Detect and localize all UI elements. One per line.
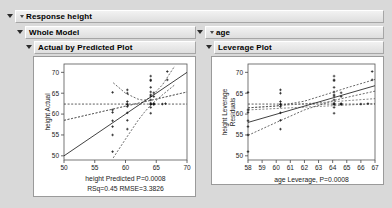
plot-frame bbox=[248, 64, 375, 160]
leverage-plot-panel: 505560657058596061626364656667height Lev… bbox=[211, 56, 384, 185]
panel-header-response-box[interactable]: Response height bbox=[15, 10, 384, 23]
y-axis-tick-label: 60 bbox=[52, 110, 60, 117]
x-axis-tick-label: 59 bbox=[258, 164, 266, 171]
y-axis-tick-label: 60 bbox=[236, 110, 244, 117]
y-axis-tick-label: 65 bbox=[52, 90, 60, 97]
x-axis-tick-label: 50 bbox=[60, 164, 68, 171]
disclosure-triangle-icon[interactable] bbox=[6, 10, 15, 23]
actual-by-predicted-plot-canvas: 50556065705055606570height Actualheight … bbox=[34, 57, 195, 196]
y-axis-title: Residuals bbox=[229, 97, 236, 126]
y-axis-tick-label: 55 bbox=[236, 131, 244, 138]
x-axis-tick-label: 63 bbox=[315, 164, 323, 171]
y-axis-tick-label: 50 bbox=[52, 152, 60, 159]
x-axis-tick-label: 70 bbox=[183, 164, 191, 171]
y-axis-tick-label: 70 bbox=[52, 69, 60, 76]
disclosure-triangle-icon[interactable] bbox=[25, 41, 34, 54]
x-axis-tick-label: 62 bbox=[301, 164, 309, 171]
panel-header-leverage-box[interactable]: Leverage Plot bbox=[214, 41, 384, 54]
panel-header-leverage[interactable]: Leverage Plot bbox=[205, 41, 384, 54]
x-axis-tick-label: 61 bbox=[287, 164, 295, 171]
y-axis-title: height Actual bbox=[44, 93, 52, 131]
x-axis-tick-label: 58 bbox=[244, 164, 252, 171]
x-axis-tick-label: 64 bbox=[329, 164, 337, 171]
panel-header-response[interactable]: Response height bbox=[6, 10, 384, 23]
x-axis-title: age Leverage, P=0.0008 bbox=[274, 176, 349, 184]
leverage-plot-canvas: 505560657058596061626364656667height Lev… bbox=[212, 57, 383, 184]
panel-header-leverage-label: Leverage Plot bbox=[218, 42, 272, 53]
panel-header-actual-by-predicted-box[interactable]: Actual by Predicted Plot bbox=[34, 41, 196, 54]
disclosure-triangle-icon[interactable] bbox=[196, 26, 205, 39]
x-axis-tick-label: 60 bbox=[273, 164, 281, 171]
panel-header-whole-model-label: Whole Model bbox=[29, 27, 79, 38]
panel-header-age[interactable]: age bbox=[196, 26, 384, 39]
x-axis-tick-label: 67 bbox=[371, 164, 379, 171]
x-axis-title: height Predicted P=0.0008 bbox=[85, 175, 166, 183]
jmp-report-window: Response height Whole Model age Actual b… bbox=[0, 0, 392, 208]
secondary-disclosure-triangle-icon[interactable] bbox=[209, 27, 216, 38]
plot-frame bbox=[64, 64, 187, 160]
panel-header-whole-model[interactable]: Whole Model bbox=[16, 26, 196, 39]
actual-by-predicted-plot-panel: 50556065705055606570height Actualheight … bbox=[33, 56, 196, 197]
x-axis-tick-label: 55 bbox=[91, 164, 99, 171]
panel-header-age-label: age bbox=[216, 27, 230, 38]
panel-header-response-label: Response height bbox=[26, 11, 92, 22]
y-axis-tick-label: 70 bbox=[236, 69, 244, 76]
y-axis-tick-label: 55 bbox=[52, 131, 60, 138]
panel-header-actual-by-predicted[interactable]: Actual by Predicted Plot bbox=[25, 41, 196, 54]
chart-caption: RSq=0.45 RMSE=3.3826 bbox=[87, 185, 164, 193]
x-axis-tick-label: 60 bbox=[122, 164, 130, 171]
panel-header-actual-by-predicted-label: Actual by Predicted Plot bbox=[38, 42, 132, 53]
x-axis-tick-label: 65 bbox=[153, 164, 161, 171]
x-axis-tick-label: 66 bbox=[357, 164, 365, 171]
x-axis-tick-label: 65 bbox=[343, 164, 351, 171]
y-axis-tick-label: 65 bbox=[236, 90, 244, 97]
secondary-disclosure-triangle-icon[interactable] bbox=[19, 11, 26, 22]
disclosure-triangle-icon[interactable] bbox=[16, 26, 25, 39]
panel-header-whole-model-box[interactable]: Whole Model bbox=[25, 26, 196, 39]
panel-header-age-box[interactable]: age bbox=[205, 26, 384, 39]
y-axis-tick-label: 50 bbox=[236, 152, 244, 159]
disclosure-triangle-icon[interactable] bbox=[205, 41, 214, 54]
